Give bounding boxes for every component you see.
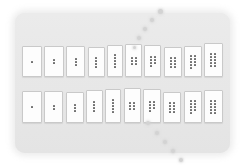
pip bbox=[93, 104, 95, 106]
pip bbox=[135, 60, 137, 62]
card-top-5[interactable] bbox=[107, 45, 123, 77]
pip bbox=[95, 60, 97, 62]
pip bbox=[149, 101, 151, 103]
card-bottom-4[interactable] bbox=[86, 90, 103, 123]
pip bbox=[210, 109, 212, 111]
trail-dot bbox=[171, 149, 175, 153]
pip bbox=[210, 100, 212, 102]
pip-group bbox=[112, 99, 114, 113]
card-top-3[interactable] bbox=[66, 46, 85, 77]
card-bottom-8[interactable] bbox=[163, 92, 181, 123]
pip bbox=[194, 61, 196, 63]
pip-group bbox=[190, 55, 196, 69]
pip-group bbox=[190, 100, 196, 114]
card-bottom-10[interactable] bbox=[204, 90, 223, 123]
pip bbox=[133, 102, 135, 104]
pip-group bbox=[53, 59, 55, 64]
pip bbox=[190, 67, 192, 69]
pip bbox=[133, 108, 135, 110]
card-bottom-6[interactable] bbox=[124, 88, 141, 123]
pip bbox=[112, 108, 114, 110]
pip bbox=[131, 63, 133, 65]
pip bbox=[210, 103, 212, 105]
pip bbox=[170, 60, 172, 62]
pip-group bbox=[170, 57, 176, 68]
pip bbox=[95, 63, 97, 65]
pip bbox=[173, 105, 175, 107]
pip bbox=[53, 108, 55, 110]
pip bbox=[53, 59, 55, 61]
pip bbox=[214, 56, 216, 58]
pip bbox=[194, 106, 196, 108]
pip bbox=[194, 55, 196, 57]
trail-dot bbox=[143, 27, 147, 31]
pip bbox=[74, 110, 76, 112]
pip bbox=[170, 63, 172, 65]
card-top-1[interactable] bbox=[22, 46, 42, 77]
card-bottom-2[interactable] bbox=[44, 91, 63, 123]
card-top-2[interactable] bbox=[44, 46, 64, 77]
card-bottom-5[interactable] bbox=[105, 89, 121, 123]
card-top-9[interactable] bbox=[184, 46, 202, 77]
pip bbox=[214, 59, 216, 61]
pip bbox=[114, 66, 116, 68]
pip bbox=[174, 60, 176, 62]
pip bbox=[190, 106, 192, 108]
pip bbox=[150, 62, 152, 64]
pip bbox=[112, 102, 114, 104]
card-bottom-1[interactable] bbox=[22, 91, 42, 123]
pip bbox=[214, 53, 216, 55]
pip bbox=[194, 64, 196, 66]
pip bbox=[210, 56, 212, 58]
pip bbox=[135, 63, 137, 65]
card-top-10[interactable] bbox=[204, 43, 223, 77]
pip-group bbox=[169, 102, 175, 113]
pip bbox=[174, 57, 176, 59]
pip bbox=[114, 54, 116, 56]
pip bbox=[112, 111, 114, 113]
pip bbox=[190, 109, 192, 111]
pip-group bbox=[150, 56, 156, 67]
pip bbox=[75, 61, 77, 63]
pip bbox=[93, 101, 95, 103]
trail-dot bbox=[146, 121, 150, 125]
pip-group bbox=[210, 100, 216, 114]
pip bbox=[153, 104, 155, 106]
card-top-8[interactable] bbox=[164, 47, 182, 77]
pip bbox=[190, 103, 192, 105]
card-top-7[interactable] bbox=[144, 45, 161, 77]
pip bbox=[112, 105, 114, 107]
card-top-4[interactable] bbox=[88, 47, 105, 77]
trail-dot bbox=[158, 9, 163, 14]
card-rows-container bbox=[15, 13, 230, 153]
pip bbox=[190, 61, 192, 63]
pip bbox=[214, 106, 216, 108]
figure-canvas bbox=[0, 0, 245, 167]
pip bbox=[169, 111, 171, 113]
pip bbox=[190, 112, 192, 114]
pip bbox=[210, 65, 212, 67]
pip bbox=[190, 55, 192, 57]
pip bbox=[194, 109, 196, 111]
pip bbox=[173, 111, 175, 113]
pip bbox=[150, 56, 152, 58]
pip bbox=[129, 102, 131, 104]
pip-group bbox=[114, 54, 116, 68]
card-bottom-7[interactable] bbox=[143, 89, 161, 123]
pip bbox=[149, 107, 151, 109]
card-bottom-3[interactable] bbox=[66, 92, 84, 123]
pip-group bbox=[31, 61, 33, 63]
pip bbox=[210, 59, 212, 61]
pip bbox=[150, 59, 152, 61]
pip bbox=[214, 103, 216, 105]
pip bbox=[210, 106, 212, 108]
pip bbox=[210, 53, 212, 55]
pip bbox=[93, 110, 95, 112]
pip bbox=[194, 100, 196, 102]
pip bbox=[95, 57, 97, 59]
card-bottom-9[interactable] bbox=[184, 91, 202, 123]
pip bbox=[112, 99, 114, 101]
pip-group bbox=[74, 104, 76, 112]
pip bbox=[131, 57, 133, 59]
pip bbox=[95, 66, 97, 68]
